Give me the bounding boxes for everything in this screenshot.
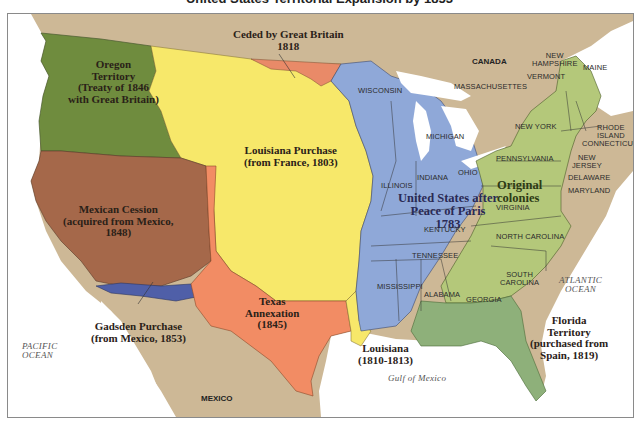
state-vermont: VERMONT — [527, 73, 565, 81]
map-title: United States Territorial Expansion by 1… — [0, 0, 639, 6]
country-mexico: MEXICO — [201, 395, 233, 403]
state-alabama: ALABAMA — [424, 291, 460, 299]
leader-gadsden — [138, 282, 153, 304]
label-gulf-of-mexico: Gulf of Mexico — [388, 374, 446, 383]
state-illinois: ILLINOIS — [381, 182, 413, 190]
state-kentucky: KENTUCKY — [424, 226, 466, 234]
state-rhode-island: RHODE ISLAND — [597, 124, 625, 140]
leader-ceded-britain — [279, 54, 295, 78]
state-new-jersey: NEW JERSEY — [572, 154, 602, 170]
label-gadsden: Gadsden Purchase (from Mexico, 1853) — [91, 321, 186, 344]
state-mississippi: MISSISSIPPI — [377, 283, 423, 291]
label-mexican-cession: Mexican Cession (acquired from Mexico, 1… — [63, 204, 173, 239]
label-original-colonies: Original colonies — [497, 179, 542, 205]
label-florida: Florida Territory (purchased from Spain,… — [530, 315, 608, 361]
state-indiana: INDIANA — [417, 174, 448, 182]
label-pacific-ocean: PACIFIC OCEAN — [22, 342, 57, 361]
state-connecticut: CONNECTICUT — [582, 140, 634, 148]
label-louisiana-1810: Louisiana (1810-1813) — [358, 343, 413, 366]
state-virginia: VIRGINIA — [496, 204, 530, 212]
state-ohio: OHIO — [458, 169, 478, 177]
state-maine: MAINE — [583, 64, 607, 72]
state-georgia: GEORGIA — [466, 296, 502, 304]
state-maryland: MARYLAND — [568, 187, 610, 195]
label-louisiana-purchase: Louisiana Purchase (from France, 1803) — [244, 145, 338, 168]
country-canada: CANADA — [472, 58, 507, 66]
state-tennessee: TENNESSEE — [412, 252, 458, 260]
label-atlantic-ocean: ATLANTIC OCEAN — [559, 276, 602, 295]
state-delaware: DELAWARE — [568, 174, 610, 182]
state-south-carolina: SOUTH CAROLINA — [500, 271, 539, 287]
state-north-carolina: NORTH CAROLINA — [496, 233, 564, 241]
state-wisconsin: WISCONSIN — [358, 87, 402, 95]
state-pennsylvania: PENNSYLVANIA — [496, 155, 554, 163]
state-michigan: MICHIGAN — [426, 133, 464, 141]
state-new-york: NEW YORK — [515, 123, 557, 131]
state-new-hampshire: NEW HAMPSHIRE — [532, 52, 578, 68]
label-texas: Texas Annexation (1845) — [245, 296, 299, 331]
state-massachusetts: MASSACHUSETTES — [454, 83, 527, 91]
map-frame: Oregon Territory (Treaty of 1846 with Gr… — [7, 13, 634, 418]
